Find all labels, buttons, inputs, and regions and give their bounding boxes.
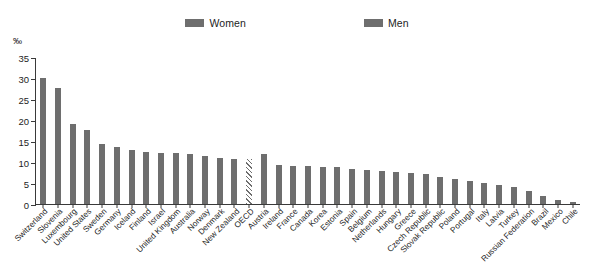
bar-spain[interactable] <box>349 169 355 204</box>
bar-turkey[interactable] <box>511 187 517 204</box>
bar-new-zealand[interactable] <box>231 159 237 204</box>
bar-slot <box>139 58 154 204</box>
bar-slot <box>242 58 257 204</box>
bar-canada[interactable] <box>305 166 311 204</box>
bar-united-states[interactable] <box>84 130 90 204</box>
bar-slot <box>492 58 507 204</box>
y-axis-tick-label: 0 <box>24 200 29 211</box>
bar-slot <box>345 58 360 204</box>
bar-iceland[interactable] <box>129 150 135 204</box>
bar-slot <box>433 58 448 204</box>
bar-denmark[interactable] <box>217 158 223 204</box>
bar-slot <box>95 58 110 204</box>
legend-item-men[interactable]: Men <box>364 18 409 28</box>
bar-chart: Women Men ‰ 05101520253035 SwitzerlandSl… <box>0 0 594 278</box>
bar-slot <box>315 58 330 204</box>
bar-slot <box>536 58 551 204</box>
bar-poland[interactable] <box>452 179 458 204</box>
y-axis-tick-label: 10 <box>18 158 29 169</box>
y-axis-tick-label: 25 <box>18 95 29 106</box>
bar-slot <box>212 58 227 204</box>
legend-label-women: Women <box>209 18 246 28</box>
y-axis-unit-label: ‰ <box>13 36 22 46</box>
bar-luxembourg[interactable] <box>70 124 76 204</box>
bar-slot <box>507 58 522 204</box>
bar-germany[interactable] <box>114 147 120 204</box>
bar-slovenia[interactable] <box>55 88 61 204</box>
bar-slot <box>418 58 433 204</box>
bar-brazil[interactable] <box>540 196 546 204</box>
bar-france[interactable] <box>290 166 296 204</box>
y-axis-tick-label: 30 <box>18 74 29 85</box>
chart-legend: Women Men <box>0 18 594 28</box>
bar-oecd[interactable] <box>246 159 252 204</box>
bar-latvia[interactable] <box>496 185 502 204</box>
bar-series-women <box>36 58 580 204</box>
bar-slot <box>80 58 95 204</box>
bar-slot <box>565 58 580 204</box>
bar-slovak-republic[interactable] <box>437 177 443 204</box>
bar-ireland[interactable] <box>276 165 282 204</box>
bar-netherlands[interactable] <box>379 171 385 204</box>
legend-swatch-icon <box>185 19 204 27</box>
bar-slot <box>359 58 374 204</box>
x-axis-labels: SwitzerlandSloveniaLuxembourgUnited Stat… <box>35 207 580 277</box>
bar-slot <box>301 58 316 204</box>
y-axis-tick-mark <box>31 205 36 206</box>
bar-slot <box>65 58 80 204</box>
bar-australia[interactable] <box>187 154 193 204</box>
legend-swatch-icon <box>364 19 383 27</box>
bar-slot <box>448 58 463 204</box>
bar-slot <box>286 58 301 204</box>
legend-item-women[interactable]: Women <box>185 18 246 28</box>
y-axis-tick-label: 5 <box>24 179 29 190</box>
bar-united-kingdom[interactable] <box>173 153 179 204</box>
bar-slot <box>477 58 492 204</box>
bar-hungary[interactable] <box>393 172 399 204</box>
bar-slot <box>404 58 419 204</box>
bar-slot <box>389 58 404 204</box>
legend-label-men: Men <box>388 18 409 28</box>
bar-slot <box>462 58 477 204</box>
bar-switzerland[interactable] <box>40 78 46 204</box>
bar-sweden[interactable] <box>99 144 105 204</box>
bar-finland[interactable] <box>143 152 149 204</box>
bar-slot <box>154 58 169 204</box>
bar-slot <box>227 58 242 204</box>
bar-slot <box>374 58 389 204</box>
bar-slot <box>110 58 125 204</box>
bar-greece[interactable] <box>408 173 414 204</box>
bar-slot <box>36 58 51 204</box>
bar-slot <box>198 58 213 204</box>
bar-portugal[interactable] <box>467 181 473 204</box>
bar-slot <box>183 58 198 204</box>
bar-slot <box>330 58 345 204</box>
bar-korea[interactable] <box>320 167 326 204</box>
y-axis-tick-label: 15 <box>18 137 29 148</box>
bar-israel[interactable] <box>158 153 164 204</box>
bar-slot <box>271 58 286 204</box>
bar-russian-federation[interactable] <box>526 191 532 204</box>
plot-area: 05101520253035 <box>35 58 580 205</box>
bar-norway[interactable] <box>202 156 208 204</box>
bar-czech-republic[interactable] <box>423 174 429 204</box>
bar-austria[interactable] <box>261 154 267 204</box>
bar-slot <box>51 58 66 204</box>
bar-estonia[interactable] <box>334 167 340 204</box>
bar-slot <box>124 58 139 204</box>
bar-belgium[interactable] <box>364 170 370 204</box>
x-label-slot: Chile <box>565 207 580 277</box>
bar-slot <box>257 58 272 204</box>
bar-slot <box>551 58 566 204</box>
bar-italy[interactable] <box>481 183 487 204</box>
y-axis-tick-label: 20 <box>18 116 29 127</box>
bar-slot <box>168 58 183 204</box>
bar-slot <box>521 58 536 204</box>
y-axis-tick-label: 35 <box>18 53 29 64</box>
